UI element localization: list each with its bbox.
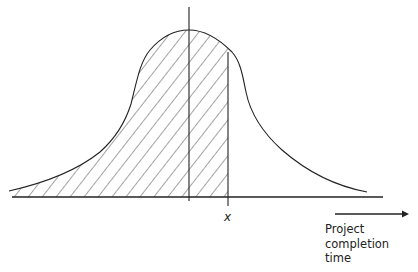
- axis-title-line: Project: [325, 222, 389, 237]
- axis-title-line: completion: [325, 237, 389, 252]
- axis-title-line: time: [325, 251, 389, 266]
- axis-title: Project completion time: [325, 222, 389, 266]
- arrow-head-icon: [402, 211, 409, 218]
- x-marker-label: x: [224, 210, 231, 224]
